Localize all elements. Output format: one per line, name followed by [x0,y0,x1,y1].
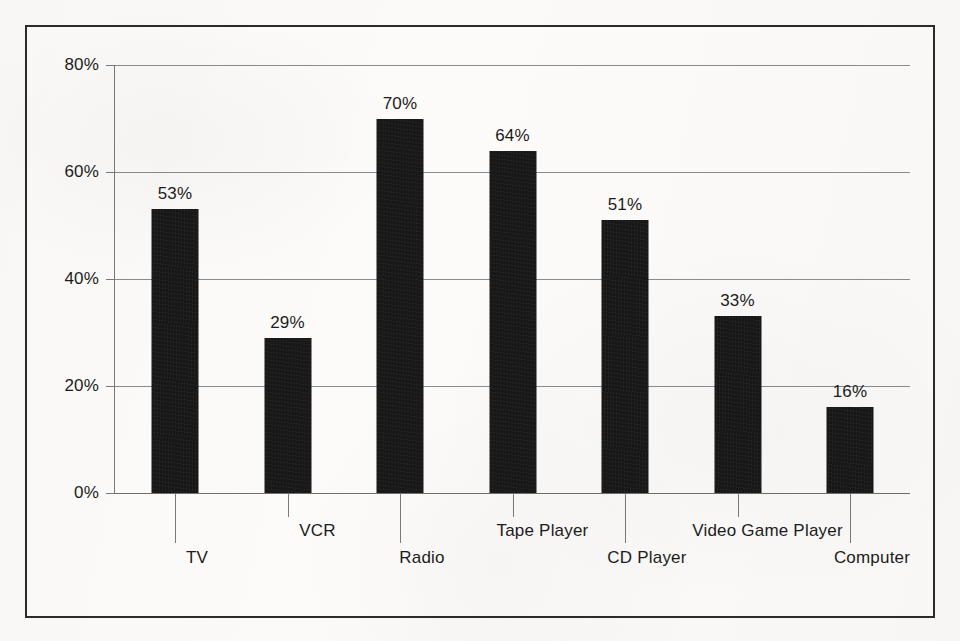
y-tick-label-60: 60% [33,162,99,182]
y-tick-label-40: 40% [33,269,99,289]
x-axis-label-cd-player: CD Player [607,548,686,568]
bar-value-label-tape-player: 64% [495,126,530,146]
bar-cd-player [602,220,649,493]
bar-value-label-tv: 53% [158,184,193,204]
plot-area: 80% 60% 40% 20% 0% 53%29%70%64%51%33%16%… [27,27,937,620]
x-axis-label-video-game-player: Video Game Player [692,521,843,541]
scanned-page: 80% 60% 40% 20% 0% 53%29%70%64%51%33%16%… [0,0,960,641]
y-tick-label-0: 0% [33,483,99,503]
x-leader-line-tape-player [513,493,514,517]
x-leader-line-computer [850,493,851,543]
bar-value-label-video-game-player: 33% [720,291,755,311]
bar-vcr [264,338,311,493]
gridline-80 [114,65,910,66]
y-tick-label-80: 80% [33,55,99,75]
y-tick-mark-40 [106,279,115,280]
x-leader-line-cd-player [625,493,626,543]
chart-figure-frame: 80% 60% 40% 20% 0% 53%29%70%64%51%33%16%… [25,25,935,618]
bar-value-label-radio: 70% [383,94,418,114]
bar-radio [377,119,424,494]
x-axis-label-radio: Radio [399,548,444,568]
y-tick-label-20: 20% [33,376,99,396]
x-axis-label-vcr: VCR [299,521,336,541]
y-tick-mark-80 [106,65,115,66]
x-leader-line-video-game-player [738,493,739,517]
bar-tv [152,209,199,493]
x-leader-line-tv [175,493,176,543]
x-axis-label-tape-player: Tape Player [497,521,589,541]
y-tick-mark-20 [106,386,115,387]
bar-value-label-vcr: 29% [270,313,305,333]
bar-value-label-computer: 16% [833,382,868,402]
y-tick-mark-60 [106,172,115,173]
bar-video-game-player [714,316,761,493]
bar-computer [827,407,874,493]
x-axis-label-computer: Computer [834,548,910,568]
x-leader-line-vcr [288,493,289,517]
bar-value-label-cd-player: 51% [608,195,643,215]
x-leader-line-radio [400,493,401,543]
x-axis-label-tv: TV [186,548,208,568]
bar-tape-player [489,151,536,493]
y-tick-mark-0 [106,493,115,494]
